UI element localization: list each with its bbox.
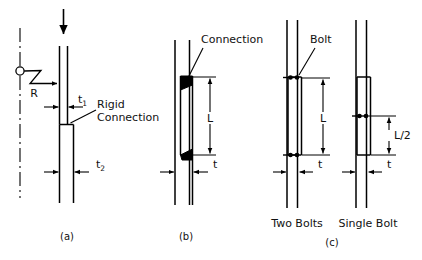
rigid-connection-label-line1: Rigid: [97, 98, 125, 111]
rigid-connection-leader: [71, 110, 97, 123]
pin-support-icon: [16, 67, 24, 75]
two-bolts-variant-label: Two Bolts: [270, 217, 323, 230]
panel-c-caption: (c): [325, 237, 338, 248]
rigid-connection-label-line2: Connection: [97, 111, 159, 124]
engineering-diagram: R t1 Rigid Connection t2 (a): [0, 0, 422, 260]
panel-a-caption: (a): [60, 231, 74, 242]
panel-a: R t1 Rigid Connection t2 (a): [16, 9, 159, 242]
spring-zigzag-icon: [24, 71, 57, 84]
L-dimension-label-c1: L: [320, 112, 327, 125]
t1-thickness-label: t1: [78, 93, 87, 108]
panel-c-single-bolt: L/2 t Single Bolt: [339, 20, 411, 230]
panel-b: Connection L t (b): [160, 33, 263, 242]
single-bolt-variant-label: Single Bolt: [339, 217, 399, 230]
spring-stiffness-label: R: [30, 87, 38, 100]
panel-c-two-bolts: Bolt L t Two Bolts: [270, 20, 332, 230]
t2-thickness-label: t2: [96, 158, 105, 173]
connection-label-b: Connection: [201, 33, 263, 46]
weld-triangle-bottom-icon: [181, 149, 193, 160]
t-thickness-label-c2: t: [387, 158, 392, 171]
bolt-leader-c: [299, 48, 315, 75]
panel-b-caption: (b): [179, 231, 193, 242]
t-thickness-label-c1: t: [318, 158, 323, 171]
L-dimension-label-b: L: [207, 112, 214, 125]
t-thickness-label-b: t: [213, 158, 218, 171]
figure-root: R t1 Rigid Connection t2 (a): [0, 0, 422, 260]
weld-triangle-top-icon: [181, 76, 193, 90]
L2-dimension-label: L/2: [394, 129, 411, 142]
bolt-label-c: Bolt: [310, 33, 332, 46]
